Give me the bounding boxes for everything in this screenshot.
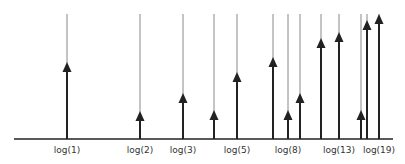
marker-label: log(3) [170, 145, 196, 155]
log-marker-diagram: log(1)log(2)log(3)log(5)log(8)log(13)log… [0, 0, 405, 164]
arrow-head-icon [317, 38, 326, 48]
arrow-head-icon [335, 32, 344, 42]
marker [296, 14, 305, 139]
arrow-head-icon [233, 72, 242, 82]
marker-label: log(5) [224, 145, 250, 155]
marker-label: log(1) [54, 145, 80, 155]
marker-label: log(8) [275, 145, 301, 155]
marker: log(13) [323, 14, 355, 155]
arrow-head-icon [63, 62, 72, 72]
marker [357, 14, 366, 139]
arrow-head-icon [179, 93, 188, 103]
marker [317, 14, 326, 139]
arrow-head-icon [363, 20, 372, 30]
marker: log(8) [275, 14, 301, 155]
marker: log(1) [54, 14, 80, 155]
marker-label: log(13) [323, 145, 355, 155]
marker: log(3) [170, 14, 196, 155]
arrow-head-icon [284, 110, 293, 120]
arrow-head-icon [375, 14, 384, 24]
marker [210, 14, 219, 139]
arrow-head-icon [210, 110, 219, 120]
arrow-head-icon [357, 110, 366, 120]
arrow-head-icon [136, 111, 145, 121]
arrow-head-icon [296, 93, 305, 103]
marker: log(5) [224, 14, 250, 155]
marker: log(2) [127, 14, 153, 155]
marker-label: log(2) [127, 145, 153, 155]
marker [269, 14, 278, 139]
marker-label: log(19) [363, 145, 395, 155]
arrow-head-icon [269, 57, 278, 67]
marker [363, 14, 372, 139]
markers-group: log(1)log(2)log(3)log(5)log(8)log(13)log… [54, 14, 395, 155]
